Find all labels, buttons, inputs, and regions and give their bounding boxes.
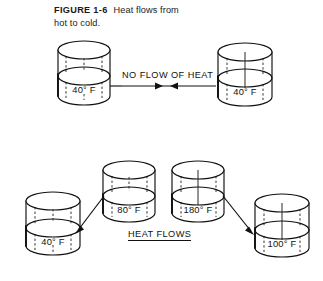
heat-flow-arrow-right-shaft [223,196,250,230]
no-flow-arrowhead-right [155,83,163,90]
temperature-label-bottom-far-left: 40° F [28,236,78,247]
temperature-label-bottom-far-right: 100° F [257,238,307,249]
vessel-top-left [58,41,110,105]
heat-flow-arrow-left-shaft [79,196,104,229]
no-flow-arrow [122,83,216,90]
temperature-label-top-left: 40° F [59,84,109,95]
vessel-bottom-far-left-rim [26,192,80,210]
temperature-label-bottom-mid-right: 180° F [173,204,223,215]
figure-container: FIGURE 1-6Heat flows from hot to cold. [0,0,323,281]
temperature-label-top-right: 40° F [220,86,270,97]
heat-flow-arrow-right-head [245,227,254,236]
heat-flow-arrow-right [223,196,254,235]
no-flow-arrowhead-left [170,83,178,90]
temperature-label-bottom-mid-left: 80° F [104,204,154,215]
heat-flows-label: HEAT FLOWS [128,229,191,241]
no-flow-of-heat-label: NO FLOW OF HEAT [122,70,213,80]
